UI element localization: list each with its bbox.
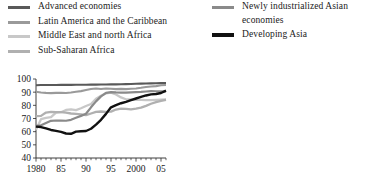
line-swatch-icon (212, 6, 234, 9)
x-tick-label: 05 (156, 164, 166, 174)
legend-item[interactable]: Newly industrialized Asian economies (212, 0, 366, 27)
x-tick-label: 85 (56, 164, 66, 174)
series-line (36, 83, 166, 85)
chart-legend: Advanced economiesLatin America and the … (0, 0, 366, 68)
line-swatch-icon (8, 35, 30, 38)
y-tick-label: 100 (17, 74, 32, 84)
x-axis-tick-labels: 1980859095200005 (27, 164, 167, 174)
chart-series-lines (36, 83, 166, 134)
line-swatch-icon (212, 33, 234, 37)
y-axis-tick-labels: 405060708090100 (17, 74, 32, 163)
y-tick-label: 70 (22, 114, 32, 124)
legend-item-label: Advanced economies (38, 0, 121, 14)
legend-item[interactable]: Advanced economies (8, 0, 198, 14)
line-swatch-icon (8, 50, 30, 53)
legend-item-label: Developing Asia (242, 28, 307, 42)
legend-item[interactable]: Sub-Saharan Africa (8, 44, 198, 58)
x-tick-label: 2000 (127, 164, 146, 174)
line-swatch-icon (8, 21, 30, 24)
y-tick-label: 60 (22, 127, 32, 137)
x-tick-label: 90 (81, 164, 91, 174)
x-tick-label: 95 (106, 164, 116, 174)
line-chart-svg: 405060708090100 1980859095200005 (0, 68, 366, 191)
figure-root: Advanced economiesLatin America and the … (0, 0, 366, 191)
y-tick-label: 40 (22, 153, 32, 163)
y-tick-label: 50 (22, 140, 32, 150)
legend-item-label: Newly industrialized Asian economies (242, 0, 348, 27)
x-tick-label: 1980 (27, 164, 46, 174)
line-swatch-icon (8, 6, 30, 9)
legend-item-label: Sub-Saharan Africa (38, 44, 114, 58)
legend-item-label: Latin America and the Caribbean (38, 15, 167, 29)
legend-item[interactable]: Middle East and north Africa (8, 29, 198, 43)
legend-item[interactable]: Latin America and the Caribbean (8, 15, 198, 29)
legend-column-right: Newly industrialized Asian economiesDeve… (212, 0, 366, 43)
legend-item-label: Middle East and north Africa (38, 29, 152, 43)
y-tick-label: 80 (22, 101, 32, 111)
legend-column-left: Advanced economiesLatin America and the … (8, 0, 198, 58)
y-tick-label: 90 (22, 88, 32, 98)
plot-area: 405060708090100 1980859095200005 (0, 68, 366, 191)
legend-item[interactable]: Developing Asia (212, 28, 366, 42)
